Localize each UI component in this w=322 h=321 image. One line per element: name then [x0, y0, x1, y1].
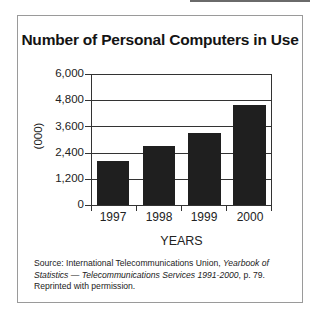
- gridline: [85, 100, 272, 101]
- y-tick-label: 6,000: [40, 67, 84, 79]
- bar-1997: [97, 161, 129, 205]
- x-tick: [271, 205, 272, 211]
- x-tick: [181, 205, 182, 211]
- y-tick-label: 0: [40, 198, 84, 210]
- x-tick: [226, 205, 227, 211]
- x-tick: [136, 205, 137, 211]
- x-tick-label: 2000: [230, 210, 270, 224]
- bar-2000: [233, 105, 266, 205]
- gridline: [85, 74, 272, 75]
- x-tick-label: 1997: [93, 210, 133, 224]
- source-prefix: Source: International Telecommunications…: [34, 258, 223, 268]
- page-edge-line: [190, 0, 310, 2]
- y-tick-label: 2,400: [40, 146, 84, 158]
- y-axis-title: (000): [32, 116, 44, 156]
- y-tick-label: 1,200: [40, 172, 84, 184]
- x-tick-label: 1999: [184, 210, 224, 224]
- x-tick-label: 1998: [139, 210, 179, 224]
- plot-right-border: [271, 74, 272, 205]
- x-axis-title: YEARS: [91, 234, 272, 248]
- chart-title: Number of Personal Computers in Use: [17, 31, 303, 49]
- bar-1998: [143, 146, 175, 205]
- y-tick-label: 3,600: [40, 120, 84, 132]
- plot-area: [91, 74, 272, 205]
- x-tick: [91, 205, 92, 211]
- x-axis-line: [85, 205, 272, 206]
- y-axis-line: [91, 74, 92, 205]
- bar-1999: [188, 133, 221, 205]
- source-note: Source: International Telecommunications…: [34, 258, 296, 293]
- y-tick-label: 4,800: [40, 93, 84, 105]
